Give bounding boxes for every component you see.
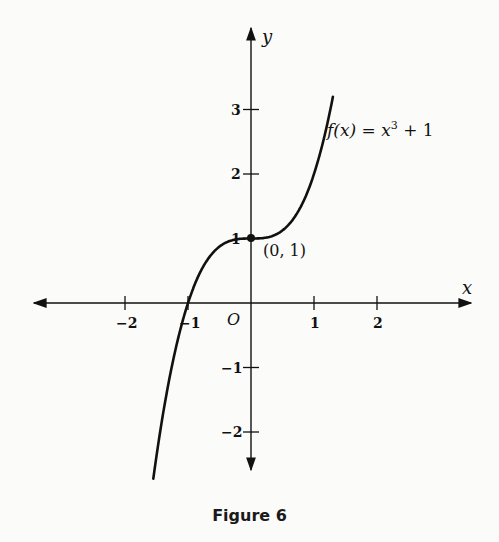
y-tick-label: 3 xyxy=(231,102,241,118)
point-label: (0, 1) xyxy=(263,241,306,260)
y-tick-label: −1 xyxy=(221,360,242,376)
cubic-graph: −2−112321−1−2 y x O (0, 1) f(x) = x3 + 1 xyxy=(0,0,499,542)
function-label: f(x) = x3 + 1 xyxy=(325,119,434,140)
function-curve xyxy=(153,97,333,479)
tick-labels: −2−112321−1−2 xyxy=(116,102,383,441)
x-tick-label: 2 xyxy=(373,315,383,331)
y-tick-label: 2 xyxy=(231,166,241,182)
x-tick-label: −2 xyxy=(116,315,137,331)
point-marker xyxy=(247,234,255,242)
figure-caption: Figure 6 xyxy=(0,506,499,525)
x-axis-label: x xyxy=(462,277,472,298)
origin-label: O xyxy=(227,310,240,329)
x-tick-label: 1 xyxy=(310,315,320,331)
y-tick-label: −2 xyxy=(221,424,242,440)
y-axis-label: y xyxy=(261,26,273,47)
